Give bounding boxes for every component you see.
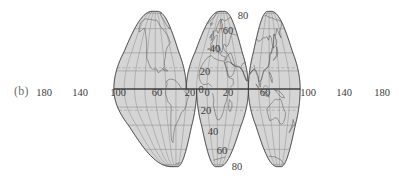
longitude-label: 180 <box>374 87 390 98</box>
longitude-label: 140 <box>336 87 352 98</box>
latitude-label: 40 <box>210 43 221 54</box>
longitude-label: 20 <box>223 87 234 98</box>
longitude-label: 100 <box>110 87 126 98</box>
longitude-label: 60 <box>260 87 271 98</box>
latitude-label: 20 <box>201 105 212 116</box>
latitude-label: 40 <box>208 126 219 137</box>
longitude-label: 140 <box>72 87 88 98</box>
latitude-label: 0 <box>198 84 203 95</box>
latitude-label: 20 <box>200 66 211 77</box>
figure-panel-b: (b) 180140100602002060100140180 80604020… <box>0 0 399 180</box>
longitude-label: 60 <box>152 87 163 98</box>
latitude-label: 80 <box>232 161 243 172</box>
latitude-label: 80 <box>238 10 249 21</box>
longitude-label: 100 <box>300 87 316 98</box>
longitude-label: 180 <box>36 87 52 98</box>
longitude-label: 0 <box>204 87 209 98</box>
longitude-label: 20 <box>185 87 196 98</box>
latitude-label: 60 <box>217 145 228 156</box>
latitude-label: 60 <box>223 25 234 36</box>
panel-label-b: (b) <box>14 84 29 99</box>
